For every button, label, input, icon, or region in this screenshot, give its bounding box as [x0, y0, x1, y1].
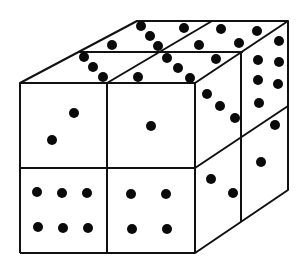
- pip-dot: [98, 72, 108, 82]
- pip-dot: [270, 120, 280, 130]
- pip-dot: [133, 72, 143, 82]
- pip-dot: [32, 187, 42, 197]
- pip-dot: [69, 108, 79, 118]
- dice-block-diagram: [0, 0, 305, 272]
- pip-dot: [58, 223, 68, 233]
- pip-dot: [136, 21, 146, 31]
- pip-dot: [216, 24, 226, 34]
- pip-dot: [162, 224, 172, 234]
- pip-dot: [256, 157, 266, 167]
- pip-dot: [206, 174, 216, 184]
- pip-dot: [88, 62, 98, 72]
- pip-dot: [185, 73, 195, 83]
- pip-dot: [146, 121, 156, 131]
- pip-dot: [230, 113, 240, 123]
- pip-dot: [254, 98, 264, 108]
- pip-dot: [47, 135, 57, 145]
- pip-dot: [107, 40, 117, 50]
- pip-dot: [179, 23, 189, 33]
- pip-dot: [145, 31, 155, 41]
- pip-dot: [252, 26, 262, 36]
- pip-dot: [253, 75, 263, 85]
- pip-dot: [273, 79, 283, 89]
- pip-dot: [202, 89, 212, 99]
- pip-dot: [215, 101, 225, 111]
- pip-dot: [127, 224, 137, 234]
- pip-dot: [83, 223, 93, 233]
- pip-dot: [274, 36, 284, 46]
- pip-dot: [211, 54, 221, 64]
- pip-dot: [126, 189, 136, 199]
- pip-dot: [57, 188, 67, 198]
- pip-dot: [194, 40, 204, 50]
- pip-dot: [253, 55, 263, 65]
- pip-dot: [173, 63, 183, 73]
- pip-dot: [162, 53, 172, 63]
- pip-dot: [79, 52, 89, 62]
- pip-dot: [33, 222, 43, 232]
- pip-dot: [274, 57, 284, 67]
- pip-dot: [153, 41, 163, 51]
- pip-dot: [234, 38, 244, 48]
- pip-dot: [161, 189, 171, 199]
- pip-dot: [82, 188, 92, 198]
- pip-dot: [228, 188, 238, 198]
